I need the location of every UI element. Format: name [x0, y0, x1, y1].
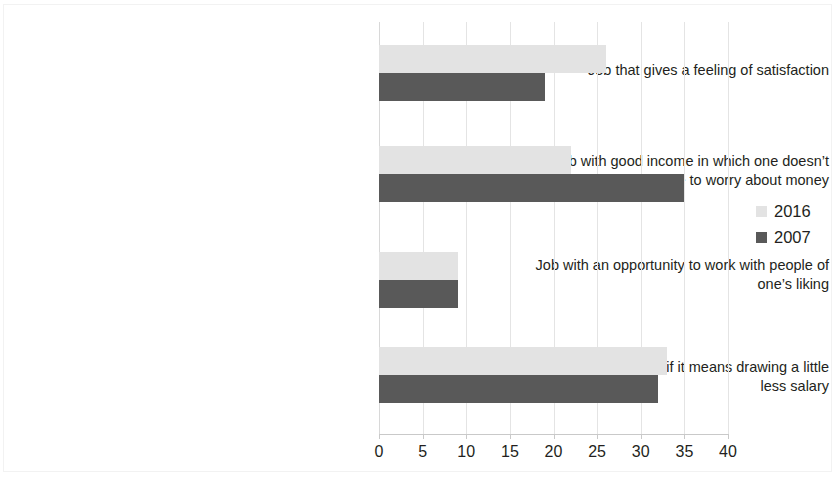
x-tick-label-1: 5: [403, 443, 443, 461]
plot-area: [379, 22, 728, 434]
x-tick-3: [510, 434, 511, 439]
x-tick-label-6: 30: [621, 443, 661, 461]
x-tick-1: [423, 434, 424, 439]
bar-2016-3: [379, 347, 667, 375]
bar-2007-2: [379, 280, 458, 308]
x-tick-4: [554, 434, 555, 439]
x-tick-label-2: 10: [446, 443, 486, 461]
bar-2016-0: [379, 45, 606, 73]
x-tick-8: [728, 434, 729, 439]
legend-item-2007: 2007: [756, 224, 836, 250]
x-tick-5: [597, 434, 598, 439]
chart-legend: 2016 2007: [756, 198, 836, 250]
x-tick-label-5: 25: [577, 443, 617, 461]
gridline-40: [728, 22, 729, 434]
bar-2007-1: [379, 174, 684, 202]
bar-2016-2: [379, 252, 458, 280]
x-tick-label-3: 15: [490, 443, 530, 461]
bar-chart: Job that gives a feeling of satisfaction…: [0, 0, 839, 478]
bar-2016-1: [379, 146, 571, 174]
x-tick-0: [379, 434, 380, 439]
x-tick-label-0: 0: [359, 443, 399, 461]
bar-2007-3: [379, 375, 658, 403]
bar-2007-0: [379, 73, 545, 101]
gridline-35: [684, 22, 685, 434]
x-tick-6: [641, 434, 642, 439]
x-tick-label-4: 20: [534, 443, 574, 461]
legend-item-2016: 2016: [756, 198, 836, 224]
x-tick-7: [684, 434, 685, 439]
x-tick-2: [466, 434, 467, 439]
legend-swatch-2016-icon: [756, 206, 767, 217]
legend-swatch-2007-icon: [756, 232, 767, 243]
legend-label-2007: 2007: [774, 229, 811, 246]
x-tick-label-8: 40: [708, 443, 748, 461]
legend-label-2016: 2016: [774, 203, 811, 220]
x-tick-label-7: 35: [664, 443, 704, 461]
